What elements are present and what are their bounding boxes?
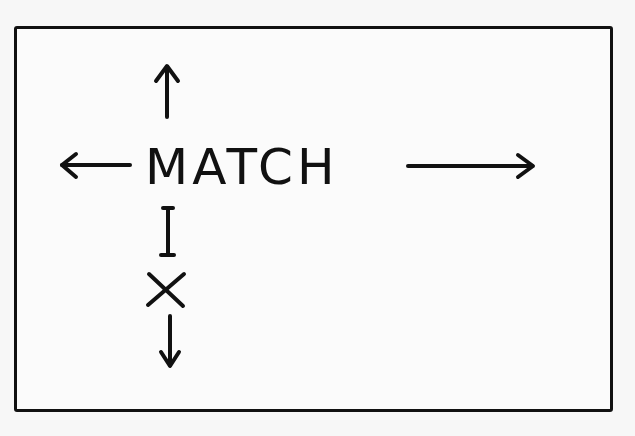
- up-arrow-icon: [156, 66, 178, 117]
- letter-x-glyph: [148, 274, 184, 306]
- down-arrow-icon: [161, 316, 179, 366]
- arrows-layer: [0, 0, 635, 436]
- right-arrow-icon: [408, 155, 533, 177]
- center-word-match: MATCH: [145, 142, 339, 192]
- letter-i-glyph: [161, 208, 174, 255]
- left-arrow-icon: [62, 154, 130, 177]
